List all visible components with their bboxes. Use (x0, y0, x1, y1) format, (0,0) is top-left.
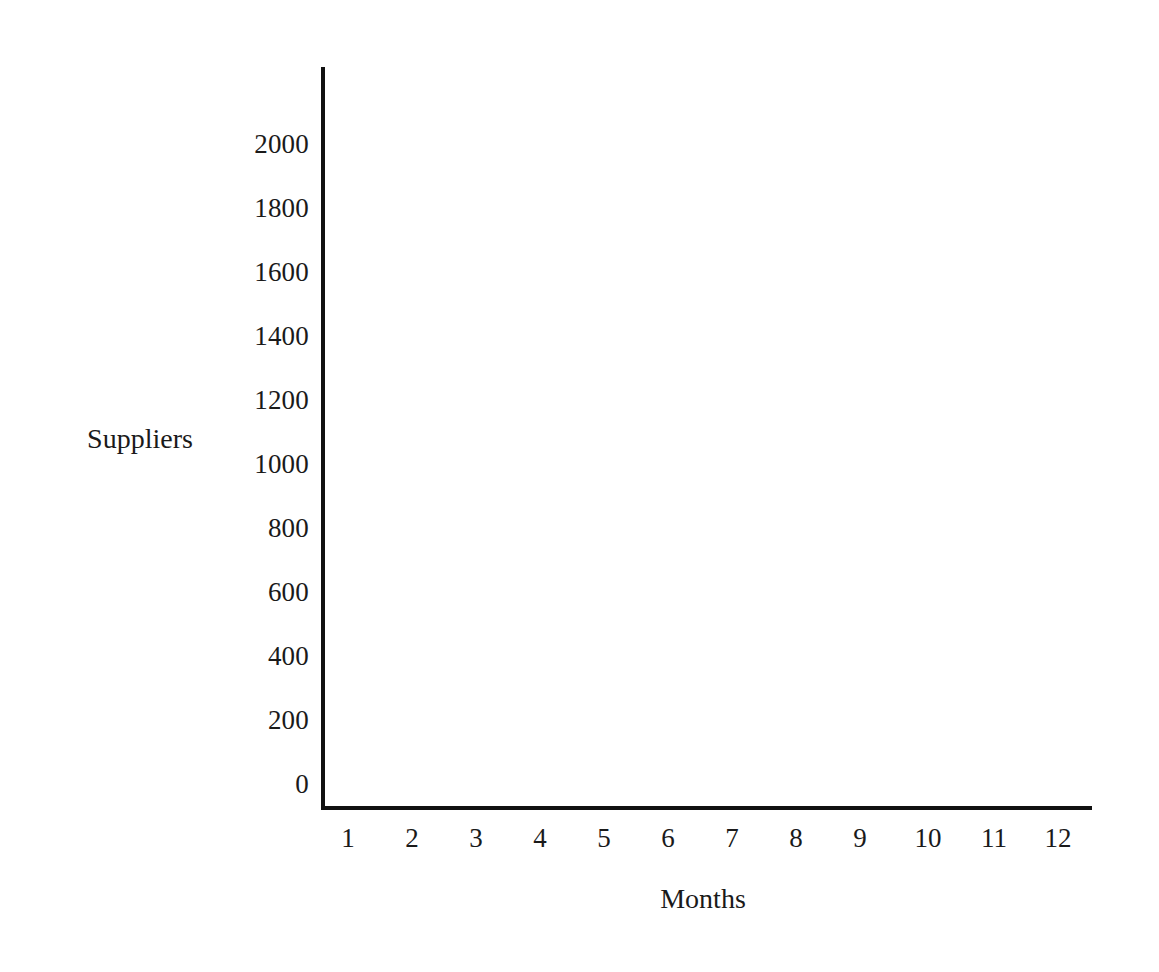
y-tick-label: 1400 (180, 321, 309, 351)
x-tick-label: 12 (1018, 822, 1098, 854)
x-axis-title: Months (583, 882, 823, 916)
y-tick-label: 400 (180, 641, 309, 671)
y-tick-label: 2000 (180, 129, 309, 159)
chart-canvas: 2000 1800 1600 1400 1200 1000 800 600 40… (0, 0, 1159, 972)
plot-area (325, 67, 1092, 806)
y-tick-label: 600 (180, 577, 309, 607)
y-axis-title: Suppliers (20, 422, 260, 456)
x-axis-tick-labels: 1 2 3 4 5 6 7 8 9 10 11 12 (0, 822, 1159, 862)
x-axis-line (321, 806, 1092, 810)
y-tick-label: 1600 (180, 257, 309, 287)
y-tick-label: 200 (180, 705, 309, 735)
y-tick-label: 1800 (180, 193, 309, 223)
y-tick-label: 800 (180, 513, 309, 543)
y-tick-label: 1200 (180, 385, 309, 415)
y-tick-label: 0 (180, 769, 309, 799)
